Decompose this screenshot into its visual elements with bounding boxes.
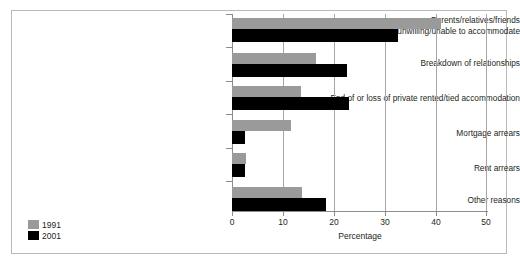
bar-2001-5 — [232, 198, 326, 211]
x-tick-label-50: 50 — [481, 217, 490, 227]
bar-1991-3 — [232, 120, 291, 131]
x-tick-label-20: 20 — [329, 217, 338, 227]
bar-1991-4 — [232, 153, 246, 164]
legend-label-2001: 2001 — [42, 231, 61, 241]
gridline-10 — [283, 14, 284, 211]
bar-1991-5 — [232, 187, 302, 198]
plot-area — [232, 14, 487, 211]
x-tick-label-0: 0 — [230, 217, 235, 227]
x-axis-tick-50 — [486, 211, 487, 216]
bar-2001-3 — [232, 131, 245, 144]
bar-1991-0 — [232, 18, 441, 29]
x-axis-tick-0 — [232, 211, 233, 216]
x-axis-tick-40 — [436, 211, 437, 216]
chart-figure: Parents/relatives/friends unwilling/unab… — [0, 0, 520, 266]
bar-2001-1 — [232, 64, 347, 77]
gridline-50 — [486, 14, 487, 211]
gridline-40 — [436, 14, 437, 211]
x-tick-label-40: 40 — [431, 217, 440, 227]
legend-label-1991: 1991 — [42, 220, 61, 230]
x-axis-tick-30 — [385, 211, 386, 216]
x-axis-line — [232, 211, 488, 212]
bar-2001-2 — [232, 97, 349, 110]
legend-swatch-icon-1991 — [28, 220, 39, 229]
chart-legend: 1991 2001 — [28, 219, 61, 241]
bar-1991-1 — [232, 53, 316, 64]
x-tick-label-10: 10 — [278, 217, 287, 227]
x-axis-tick-10 — [283, 211, 284, 216]
x-axis-tick-20 — [334, 211, 335, 216]
legend-swatch-icon-2001 — [28, 231, 39, 240]
x-tick-label-30: 30 — [380, 217, 389, 227]
bar-2001-0 — [232, 29, 398, 42]
x-axis-title: Percentage — [232, 231, 488, 241]
legend-item-1991: 1991 — [28, 219, 61, 230]
legend-item-2001: 2001 — [28, 230, 61, 241]
gridline-20 — [334, 14, 335, 211]
bar-2001-4 — [232, 164, 245, 177]
gridline-30 — [385, 14, 386, 211]
bar-1991-2 — [232, 86, 301, 97]
